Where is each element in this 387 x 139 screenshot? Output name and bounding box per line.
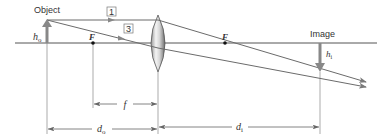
image-distance-subscript: i	[241, 126, 243, 134]
image-distance-label: di	[236, 121, 243, 134]
converging-lens	[151, 15, 165, 72]
focal-left-label: F	[88, 32, 95, 42]
ray-3-label: 3	[126, 24, 131, 34]
object-distance-subscript: o	[102, 128, 106, 136]
image-label: Image	[310, 29, 335, 39]
focal-length-label: f	[124, 99, 128, 110]
ray-1-label: 1	[109, 7, 114, 17]
object-distance-label: do	[97, 123, 106, 136]
ray-1-direction-arrow	[108, 18, 115, 23]
object-height-subscript: o	[38, 36, 42, 44]
image-height-label: hi	[326, 49, 333, 60]
ray-3-refracted	[158, 48, 366, 87]
focal-right-label: F	[221, 32, 228, 42]
object-label: Object	[34, 5, 61, 15]
image-height-subscript: i	[331, 54, 333, 60]
ray-3-incident	[47, 20, 158, 48]
ray-diagram: 1 3 Object Image F F ho hi f do di	[0, 0, 387, 139]
object-height-label: ho	[33, 31, 42, 44]
